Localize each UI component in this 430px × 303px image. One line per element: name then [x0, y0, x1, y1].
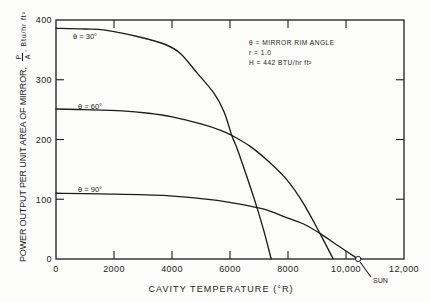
chart: 0200040006000800010,00012,000 0100200300…: [0, 0, 430, 303]
plot-frame: [56, 20, 404, 259]
x-tick-label: 10,000: [331, 264, 361, 274]
y-axis-title: POWER OUTPUT PER UNIT AREA OF MIRROR, P …: [15, 11, 31, 262]
legend-line-rim-angle: θ = MIRROR RIM ANGLE: [249, 39, 335, 46]
y-tick-label: 400: [36, 15, 52, 25]
x-tick-label: 6000: [219, 264, 241, 274]
x-tick-label: 8000: [277, 264, 299, 274]
y-axis-title-main: POWER OUTPUT PER UNIT AREA OF MIRROR,: [18, 66, 28, 262]
x-tick-label: 4000: [161, 264, 183, 274]
legend-line-h: H = 442 BTU/hr ft²: [249, 59, 312, 66]
y-axis-fraction-numerator: P: [15, 54, 22, 59]
curve-label-theta-60: θ = 60°: [78, 102, 102, 111]
axis-ticks: [56, 20, 404, 259]
y-axis-fraction-denominator: A: [24, 54, 31, 59]
curve-label-theta-90: θ = 90°: [78, 185, 102, 194]
y-axis-units: , Btu/hr ft²: [20, 11, 27, 52]
x-tick-label: 2000: [103, 264, 125, 274]
curve-label-theta-30: θ = 30°: [73, 32, 97, 41]
curves: [56, 28, 358, 259]
y-tick-label: 300: [36, 75, 52, 85]
sun-marker-circle: [356, 256, 361, 261]
x-tick-labels: 0200040006000800010,00012,000: [53, 264, 419, 274]
x-tick-label: 0: [53, 264, 58, 274]
y-tick-label: 100: [36, 195, 52, 205]
sun-leader-line: [360, 262, 371, 277]
y-tick-label: 0: [47, 254, 52, 264]
x-axis-title: CAVITY TEMPERATURE (°R): [148, 284, 293, 294]
x-tick-label: 12,000: [389, 264, 419, 274]
curve-theta-90: [56, 193, 358, 259]
curve-theta-30: [56, 28, 271, 259]
curve-theta-60: [56, 109, 333, 259]
sun-label: SUN: [373, 277, 388, 284]
y-tick-labels: 0100200300400: [36, 15, 52, 264]
legend-box: θ = MIRROR RIM ANGLE r = 1.0 H = 442 BTU…: [249, 39, 335, 66]
y-tick-label: 200: [36, 135, 52, 145]
legend-line-r: r = 1.0: [249, 49, 271, 56]
